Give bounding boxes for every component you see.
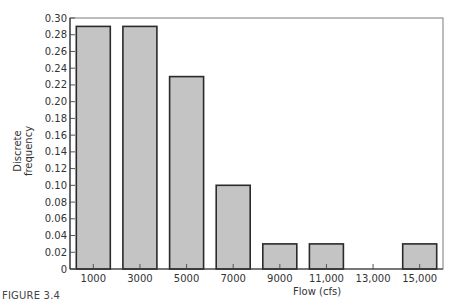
figure-caption: FIGURE 3.4 (2, 290, 60, 301)
y-tick-label: 0.10 (45, 180, 67, 191)
y-tick-label: 0.06 (45, 213, 67, 224)
x-tick-label: 15,000 (402, 273, 437, 284)
y-tick-label: 0.14 (45, 146, 67, 157)
bar (170, 77, 204, 269)
y-tick-label: 0.04 (45, 230, 67, 241)
x-tick-label: 11,000 (309, 273, 344, 284)
y-tick-label: 0.02 (45, 247, 67, 258)
y-axis-label: Discrete frequency (12, 106, 34, 196)
y-tick-label: 0.16 (45, 130, 67, 141)
bar (216, 185, 250, 269)
y-tick-label: 0.30 (45, 13, 67, 24)
y-tick-label: 0.28 (45, 29, 67, 40)
x-tick-label: 5000 (174, 273, 199, 284)
x-tick-label: 3000 (127, 273, 152, 284)
x-tick-label: 7000 (220, 273, 245, 284)
x-tick-label: 1000 (81, 273, 106, 284)
y-tick-label: 0.22 (45, 79, 67, 90)
bar (76, 26, 110, 269)
x-tick-label: 13,000 (356, 273, 391, 284)
bar-chart: 1000300050007000900011,00013,00015,00000… (0, 0, 454, 306)
y-tick-label: 0.24 (45, 63, 67, 74)
y-tick-label: 0.20 (45, 96, 67, 107)
y-tick-label: 0.08 (45, 197, 67, 208)
y-tick-label: 0.18 (45, 113, 67, 124)
y-tick-label: 0 (61, 264, 67, 275)
x-tick-label: 9000 (267, 273, 292, 284)
bar (123, 26, 157, 269)
x-axis-label: Flow (cfs) (293, 286, 341, 297)
y-tick-label: 0.26 (45, 46, 67, 57)
y-tick-label: 0.12 (45, 163, 67, 174)
